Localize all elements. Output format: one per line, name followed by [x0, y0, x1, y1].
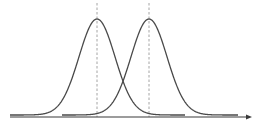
arrow-right-icon [246, 115, 252, 120]
right-distribution-curve [62, 19, 238, 115]
bell-curves-diagram [0, 0, 255, 125]
mean-lines [97, 3, 149, 117]
distribution-curves [10, 19, 238, 115]
